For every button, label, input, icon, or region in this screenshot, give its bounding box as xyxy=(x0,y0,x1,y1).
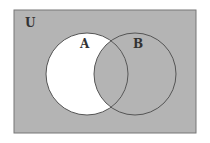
set-a-label: A xyxy=(79,37,90,51)
set-b-label: B xyxy=(133,37,143,51)
venn-diagram: U A B xyxy=(0,0,210,143)
universe-label: U xyxy=(25,16,36,30)
